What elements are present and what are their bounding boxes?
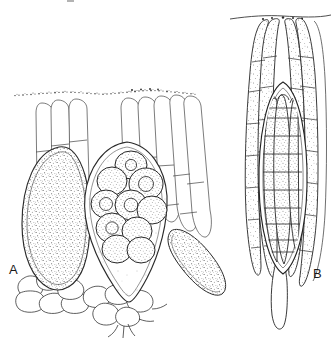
illustration-canvas: [0, 0, 335, 340]
panel-b-ascospores: [263, 95, 302, 264]
panel-label-b: B: [313, 267, 322, 280]
panel-b-group: [230, 15, 331, 329]
figure-illustration: A B: [0, 0, 335, 340]
panel-a-group: [14, 88, 225, 338]
panel-b-surface-line: [230, 15, 331, 19]
panel-a-ascus-left: [22, 147, 90, 290]
panel-label-a: A: [9, 263, 18, 276]
panel-a-epithecium-line: [14, 88, 195, 96]
panel-a-ascus-center: [85, 142, 168, 302]
panel-a-ascus-right-oblique: [168, 229, 226, 295]
